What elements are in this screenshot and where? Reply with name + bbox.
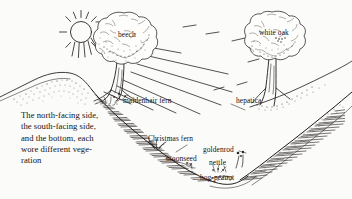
caption-line-4: wore different vege- [21, 144, 125, 155]
label-nettle: nettle [209, 159, 226, 166]
caption-line-3: and the bottom, each [21, 133, 125, 144]
label-beech: beech [118, 31, 136, 38]
label-christmas-fern: Christmas fern [148, 135, 193, 142]
beech-tree [94, 12, 158, 105]
left-ridge [0, 72, 92, 101]
label-hog-peanut: hog-peanut [200, 174, 234, 181]
caption-line-1: The north-facing side, [21, 110, 125, 121]
label-moonseed: moonseed [166, 155, 197, 162]
caption-line-2: the south-facing side, [21, 121, 125, 132]
left-ridge-texture [14, 80, 89, 106]
illustration-canvas [0, 0, 352, 199]
caption-block: The north-facing side, the south-facing … [21, 110, 125, 167]
goldenrod-plant [236, 151, 244, 168]
ravine-illustration: beech white oak maidenhair fern hepatica… [0, 0, 352, 199]
label-hepatica: hepatica [236, 97, 261, 104]
label-white-oak: white oak [259, 29, 289, 36]
caption-line-5: ration [21, 155, 125, 166]
south-facing-slope-hatching [243, 109, 352, 180]
label-goldenrod: goldenrod [203, 146, 234, 153]
label-maidenhair-fern: maidenhair fern [123, 97, 172, 104]
